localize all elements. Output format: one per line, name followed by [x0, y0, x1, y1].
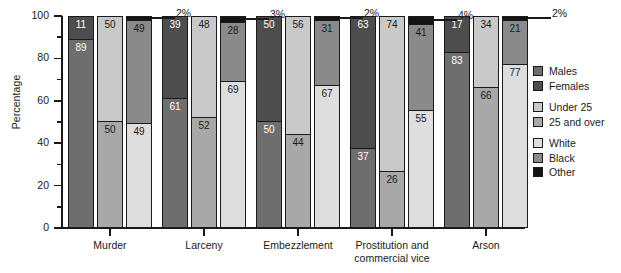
- bar-segment[interactable]: 67: [315, 86, 339, 227]
- y-tick-major: [54, 58, 62, 60]
- stacked-bar-sex[interactable]: 1189: [68, 16, 94, 228]
- bar-segment-value: 28: [227, 23, 238, 36]
- stacked-bar-race[interactable]: 4155: [408, 16, 434, 228]
- bar-segment-value: 66: [480, 88, 491, 101]
- legend-spacer: [533, 93, 604, 100]
- bar-group: 633774264155: [350, 16, 434, 228]
- bar-segment[interactable]: 34: [474, 17, 498, 88]
- bar-segment-value: 31: [321, 21, 332, 34]
- bar-segment-value: 41: [415, 25, 426, 38]
- y-tick-label: 100: [5, 10, 49, 21]
- callout-label: 2%: [364, 7, 379, 19]
- bar-segment[interactable]: 66: [474, 88, 498, 227]
- bar-segment[interactable]: 77: [503, 65, 527, 227]
- bar-segment[interactable]: 11: [69, 17, 93, 40]
- bar-segment[interactable]: 28: [221, 23, 245, 82]
- bar-segment-value: 89: [75, 40, 86, 53]
- bar-segment[interactable]: 39: [163, 17, 187, 99]
- legend-spacer: [533, 129, 604, 136]
- y-tick-major: [54, 142, 62, 144]
- bar-segment[interactable]: 41: [409, 25, 433, 111]
- legend-item-females[interactable]: Females: [533, 79, 604, 94]
- bar-segment[interactable]: 49: [127, 124, 151, 227]
- stacked-bar-race[interactable]: 4949: [126, 16, 152, 228]
- stacked-bar-sex[interactable]: 1783: [444, 16, 470, 228]
- callout-label: 2%: [552, 7, 567, 19]
- bar-segment[interactable]: 50: [98, 17, 122, 122]
- bar-segment-value: 49: [133, 124, 144, 137]
- legend-label: Black: [549, 153, 575, 164]
- bar-segment[interactable]: 52: [192, 118, 216, 227]
- callout-label: 4%: [458, 9, 473, 21]
- bar-segment[interactable]: 26: [380, 172, 404, 227]
- bar-segment[interactable]: 50: [98, 122, 122, 227]
- stacked-bar-race[interactable]: 2177: [502, 16, 528, 228]
- x-axis-label: Arson: [426, 239, 546, 252]
- legend-item-black[interactable]: Black: [533, 151, 604, 166]
- bar-group: 396148522869: [162, 16, 246, 228]
- stacked-bar-age[interactable]: 4852: [191, 16, 217, 228]
- y-tick-major: [54, 185, 62, 187]
- bar-segment[interactable]: 89: [69, 40, 93, 227]
- bar-segment[interactable]: 63: [351, 17, 375, 149]
- legend-item-under-25[interactable]: Under 25: [533, 100, 604, 115]
- y-tick-minor: [57, 164, 62, 166]
- x-axis-tick: [203, 229, 205, 236]
- bar-segment[interactable]: 61: [163, 99, 187, 227]
- stacked-bar-age[interactable]: 3466: [473, 16, 499, 228]
- y-tick-minor: [57, 121, 62, 123]
- bar-segment[interactable]: 74: [380, 17, 404, 172]
- bar-segment[interactable]: 50: [257, 17, 281, 122]
- stacked-bar-age[interactable]: 7426: [379, 16, 405, 228]
- bar-segment-value: 50: [104, 17, 115, 30]
- bar-segment[interactable]: 44: [286, 135, 310, 227]
- y-tick-major: [54, 227, 62, 229]
- stacked-bar-age[interactable]: 5644: [285, 16, 311, 228]
- chart-legend: MalesFemalesUnder 2525 and overWhiteBlac…: [533, 64, 604, 180]
- bar-segment-value: 56: [292, 17, 303, 30]
- bar-segment-value: 50: [104, 122, 115, 135]
- stacked-bar-race[interactable]: 2869: [220, 16, 246, 228]
- bar-segment[interactable]: 55: [409, 111, 433, 227]
- legend-label: 25 and over: [549, 117, 604, 128]
- bar-segment-value: 67: [321, 86, 332, 99]
- bar-segment-value: 44: [292, 135, 303, 148]
- legend-swatch: [533, 66, 543, 76]
- x-axis-tick: [297, 229, 299, 236]
- bar-segment-value: 48: [198, 17, 209, 30]
- callout-leader-line: [152, 17, 175, 19]
- callout-leader-line: [340, 17, 363, 19]
- bar-segment[interactable]: [409, 17, 433, 25]
- legend-item-white[interactable]: White: [533, 136, 604, 151]
- stacked-bar-age[interactable]: 5050: [97, 16, 123, 228]
- stacked-bar-sex[interactable]: 5050: [256, 16, 282, 228]
- x-axis-label-line: Arson: [426, 239, 546, 252]
- y-tick-label: 0: [5, 222, 49, 233]
- legend-item-other[interactable]: Other: [533, 165, 604, 180]
- bar-segment[interactable]: 37: [351, 149, 375, 227]
- y-tick-label: 20: [5, 180, 49, 191]
- legend-item-males[interactable]: Males: [533, 64, 604, 79]
- bar-segment-value: 50: [263, 122, 274, 135]
- stacked-bar-sex[interactable]: 6337: [350, 16, 376, 228]
- x-axis-tick: [485, 229, 487, 236]
- bar-segment-value: 52: [198, 118, 209, 131]
- stacked-bar-race[interactable]: 3167: [314, 16, 340, 228]
- bar-segment[interactable]: 48: [192, 17, 216, 118]
- bar-segment-value: 83: [451, 53, 462, 66]
- bar-segment-value: 49: [133, 21, 144, 34]
- y-tick-minor: [57, 206, 62, 208]
- bar-segment-value: 34: [480, 17, 491, 30]
- stacked-bar-sex[interactable]: 3961: [162, 16, 188, 228]
- bar-segment[interactable]: 31: [315, 21, 339, 86]
- bar-segment[interactable]: 69: [221, 82, 245, 227]
- bar-segment[interactable]: 21: [503, 21, 527, 65]
- callout-leader-line: [246, 18, 269, 20]
- bar-segment[interactable]: 50: [257, 122, 281, 227]
- legend-item-25-and-over[interactable]: 25 and over: [533, 115, 604, 130]
- bar-segment[interactable]: 83: [445, 53, 469, 227]
- bar-segment[interactable]: 49: [127, 21, 151, 124]
- bar-segment-value: 74: [386, 17, 397, 30]
- bar-segment[interactable]: 17: [445, 17, 469, 53]
- bar-segment[interactable]: 56: [286, 17, 310, 135]
